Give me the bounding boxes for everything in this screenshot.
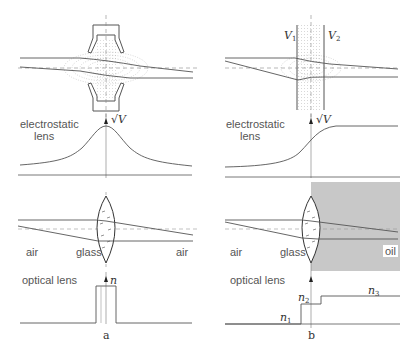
panel-b-medium-right: oil [383, 245, 398, 257]
panel-b-caption: b [308, 330, 315, 342]
index-n1-label: n1 [280, 312, 292, 327]
panel-b-optical-lens [225, 182, 400, 328]
index-n3-label: n3 [368, 285, 380, 300]
panel-b-optical-label: optical lens [230, 274, 285, 286]
panel-a-optical-label: optical lens [22, 274, 77, 286]
panel-b-lens-label: lens [240, 130, 260, 142]
panel-a-electrostatic-label: electrostatic [20, 118, 79, 130]
electrode-v1-label: V1 [284, 30, 296, 45]
lens-diagram [0, 0, 415, 355]
panel-b-medium-center: glass [280, 246, 306, 258]
panel-a-medium-left: air [26, 246, 38, 258]
panel-b-electron-optics [225, 15, 400, 118]
panel-a-sqrt-v-label: √V [111, 114, 126, 126]
electrode-v2-label: V2 [328, 30, 340, 45]
panel-b-medium-left: air [230, 246, 242, 258]
panel-b-sqrt-v-label: √V [316, 114, 331, 126]
panel-a-n-label: n [110, 275, 117, 287]
panel-a-medium-right: air [176, 246, 188, 258]
panel-a-lens-label: lens [34, 130, 54, 142]
panel-a-caption: a [103, 330, 110, 342]
panel-a-medium-center: glass [76, 246, 102, 258]
panel-b-electrostatic-label: electrostatic [226, 118, 285, 130]
panel-a-electron-optics [18, 15, 198, 118]
index-n2-label: n2 [298, 292, 310, 307]
panel-a-optical-lens [18, 192, 198, 324]
